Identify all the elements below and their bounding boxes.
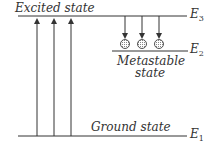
downward-arrows xyxy=(125,16,159,36)
metastable-particles xyxy=(121,40,164,49)
e2-label: E2 xyxy=(190,43,204,58)
e1-label: E1 xyxy=(190,128,204,142)
metastable-label-line2: state xyxy=(135,67,165,79)
excited-state-label: Excited state xyxy=(15,2,95,14)
e3-label: E3 xyxy=(190,8,204,23)
ground-state-label: Ground state xyxy=(91,121,171,133)
upward-arrows xyxy=(37,21,71,136)
